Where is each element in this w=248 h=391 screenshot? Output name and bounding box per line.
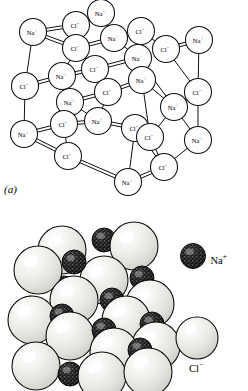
- sodium-ion-node: Na+: [185, 127, 212, 154]
- sphere-highlight: [97, 233, 105, 239]
- sphere-highlight: [105, 293, 113, 299]
- nacl-structure-figure: Na+Cl−Na+Na+Cl−Cl−Cl−Na+Na+Na+Cl−Cl−Na+C…: [0, 0, 248, 391]
- chloride-ion-node: Cl−: [63, 35, 90, 62]
- sphere-stipple: [181, 244, 205, 268]
- legend-sodium: Na+: [181, 244, 227, 269]
- legend-label: Na+: [211, 252, 227, 266]
- lattice-bond: [79, 159, 119, 176]
- sodium-sphere: [62, 250, 86, 274]
- lattice-bond: [129, 139, 133, 171]
- lattice-bond: [106, 62, 128, 68]
- space-filling-diagram: Na+Cl−: [0, 196, 248, 391]
- space-filling-sphere-layer: [8, 222, 180, 391]
- sodium-ion-node: Na+: [85, 108, 112, 135]
- chloride-ion-node: Cl−: [95, 79, 122, 106]
- sodium-ion-node: Na+: [20, 19, 47, 46]
- lattice-bond: [27, 43, 32, 75]
- legend-chloride: Cl−: [176, 317, 218, 374]
- sphere-highlight: [185, 249, 194, 256]
- sphere-body: [176, 317, 218, 359]
- lattice-bond: [35, 138, 59, 150]
- sphere-highlight: [135, 271, 143, 277]
- ion-layer: Na+Cl−Na+Na+Cl−Cl−Cl−Na+Na+Na+Cl−Cl−Na+C…: [11, 0, 213, 196]
- chloride-sphere: [12, 342, 60, 390]
- sphere-highlight: [63, 367, 71, 373]
- lattice-bond: [78, 162, 118, 179]
- panel-a-ball-and-stick: Na+Cl−Na+Na+Cl−Cl−Cl−Na+Na+Na+Cl−Cl−Na+C…: [0, 0, 248, 200]
- lattice-bond: [105, 59, 127, 65]
- legend-chloride-sphere: [176, 317, 218, 359]
- sodium-ion-node: Na+: [11, 121, 38, 148]
- panel-b-space-filling: Na+Cl− (b): [0, 196, 248, 391]
- lattice-diagram: Na+Cl−Na+Na+Cl−Cl−Cl−Na+Na+Na+Cl−Cl−Na+C…: [0, 0, 248, 200]
- lattice-bond: [33, 140, 57, 152]
- sodium-ion-node: Na+: [161, 94, 188, 121]
- lattice-bond: [150, 87, 165, 100]
- sodium-ion-node: Na+: [129, 67, 156, 94]
- chloride-ion-node: Cl−: [55, 143, 82, 170]
- chloride-ion-node: Cl−: [128, 18, 155, 45]
- chloride-ion-node: Cl−: [185, 79, 212, 106]
- sodium-ion-node: Na+: [88, 0, 115, 27]
- legend-label: Cl−: [189, 360, 203, 374]
- sodium-ion-node: Na+: [115, 169, 142, 196]
- chloride-sphere: [124, 348, 172, 391]
- sphere-highlight: [133, 343, 141, 349]
- lattice-bond: [44, 28, 65, 31]
- sodium-ion-node: Na+: [186, 27, 213, 54]
- chloride-ion-node: Cl−: [12, 73, 39, 100]
- panel-a-label: (a): [4, 183, 17, 195]
- sphere-highlight: [67, 255, 75, 261]
- chloride-ion-node: Cl−: [153, 36, 180, 63]
- sodium-ion-node: Na+: [49, 63, 76, 90]
- lattice-bond: [24, 97, 25, 123]
- chloride-ion-node: Cl−: [51, 111, 78, 138]
- lattice-bond: [198, 51, 199, 81]
- ion-legend: Na+Cl−: [176, 244, 227, 375]
- chloride-ion-node: Cl−: [151, 154, 178, 181]
- lattice-bond: [44, 25, 65, 28]
- sphere-highlight: [97, 323, 105, 329]
- sphere-body: [12, 342, 60, 390]
- sphere-body: [124, 348, 172, 391]
- chloride-ion-node: Cl−: [137, 124, 164, 151]
- sphere-stipple: [62, 250, 85, 273]
- legend-sodium-sphere: [181, 244, 206, 269]
- sodium-ion-node: Na+: [101, 25, 128, 52]
- lattice-bond: [173, 58, 192, 83]
- lattice-bond: [173, 147, 190, 160]
